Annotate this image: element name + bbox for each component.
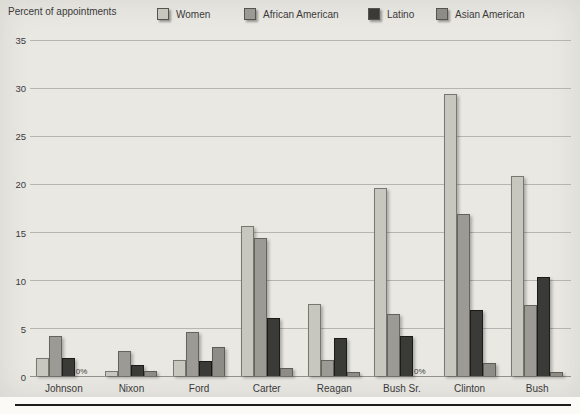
x-axis-label-nixon: Nixon [98, 383, 166, 394]
bar-women [173, 360, 186, 376]
y-tick-label-35: 35 [2, 35, 26, 46]
bar-women [374, 188, 387, 376]
bar-latino [62, 358, 75, 376]
y-tick-label-10: 10 [2, 276, 26, 287]
bar-women [308, 304, 321, 376]
x-axis-label-clinton: Clinton [436, 383, 504, 394]
bar-group-carter [233, 40, 301, 376]
legend-item-women: Women [157, 8, 210, 20]
bar-african-american [49, 336, 62, 376]
bar-women [444, 94, 457, 376]
y-tick-label-20: 20 [2, 179, 26, 190]
bar-latino [199, 361, 212, 376]
x-axis-label-ford: Ford [165, 383, 233, 394]
legend-label: Women [176, 9, 210, 20]
x-axis-label-carter: Carter [233, 383, 301, 394]
legend-label: Latino [387, 9, 414, 20]
bar-women [105, 371, 118, 376]
plot-area: 0%0% [30, 40, 571, 377]
bar-asian-american [212, 347, 225, 376]
bar-latino [131, 365, 144, 376]
bar-asian-american [550, 372, 563, 376]
bar-group-bush-sr-: 0% [368, 40, 436, 376]
x-axis-label-johnson: Johnson [30, 383, 98, 394]
bar-women [241, 226, 254, 376]
bar-african-american [387, 314, 400, 376]
bar-african-american [254, 238, 267, 376]
legend-label: African American [263, 9, 339, 20]
bar-latino [470, 310, 483, 376]
legend-item-asian-american: Asian American [436, 8, 524, 20]
y-tick-label-25: 25 [2, 131, 26, 142]
x-axis-line [30, 376, 571, 377]
y-tick-label-15: 15 [2, 228, 26, 239]
bar-group-johnson: 0% [30, 40, 98, 376]
bar-asian-american [483, 363, 496, 376]
y-tick-label-0: 0 [2, 372, 26, 383]
legend-swatch-icon [244, 8, 256, 20]
y-tick-label-5: 5 [2, 324, 26, 335]
bar-latino [334, 338, 347, 377]
bar-group-nixon [98, 40, 166, 376]
legend-item-latino: Latino [368, 8, 414, 20]
legend-swatch-icon [436, 8, 448, 20]
bar-african-american [524, 305, 537, 376]
legend-item-african-american: African American [244, 8, 339, 20]
bar-asian-american [144, 371, 157, 376]
bar-women [511, 176, 524, 376]
bar-african-american [186, 332, 199, 376]
bottom-rule-divider [15, 404, 571, 406]
chart-panel: Percent of appointments WomenAfrican Ame… [0, 0, 580, 397]
bar-group-clinton [436, 40, 504, 376]
bar-latino [267, 318, 280, 376]
bar-latino [537, 277, 550, 376]
y-tick-label-30: 30 [2, 83, 26, 94]
legend-label: Asian American [455, 9, 524, 20]
bar-group-ford [165, 40, 233, 376]
x-axis-labels: JohnsonNixonFordCarterReaganBush Sr.Clin… [30, 383, 571, 397]
legend: WomenAfrican AmericanLatinoAsian America… [0, 8, 580, 24]
x-axis-label-bush-sr-: Bush Sr. [368, 383, 436, 394]
x-axis-label-reagan: Reagan [301, 383, 369, 394]
bar-asian-american [347, 372, 360, 376]
zero-percent-annotation: 0% [75, 367, 92, 376]
bar-group-reagan [301, 40, 369, 376]
bar-women [36, 358, 49, 376]
legend-swatch-icon [157, 8, 169, 20]
x-axis-label-bush: Bush [503, 383, 571, 394]
bar-group-bush [503, 40, 571, 376]
bar-latino [400, 336, 413, 376]
bar-african-american [321, 360, 334, 376]
bar-african-american [457, 214, 470, 376]
bar-asian-american [280, 368, 293, 376]
legend-swatch-icon [368, 8, 380, 20]
zero-percent-annotation: 0% [413, 367, 430, 376]
bar-african-american [118, 351, 131, 376]
